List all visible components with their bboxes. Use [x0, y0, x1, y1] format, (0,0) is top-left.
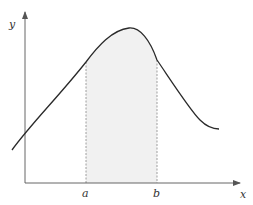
y-axis-label: y — [8, 18, 16, 31]
x-axis-label: x — [240, 188, 247, 201]
b-label: b — [153, 187, 160, 200]
a-label: a — [82, 187, 89, 200]
integral-diagram: y x a b — [0, 0, 253, 205]
shaded-region — [86, 28, 157, 183]
